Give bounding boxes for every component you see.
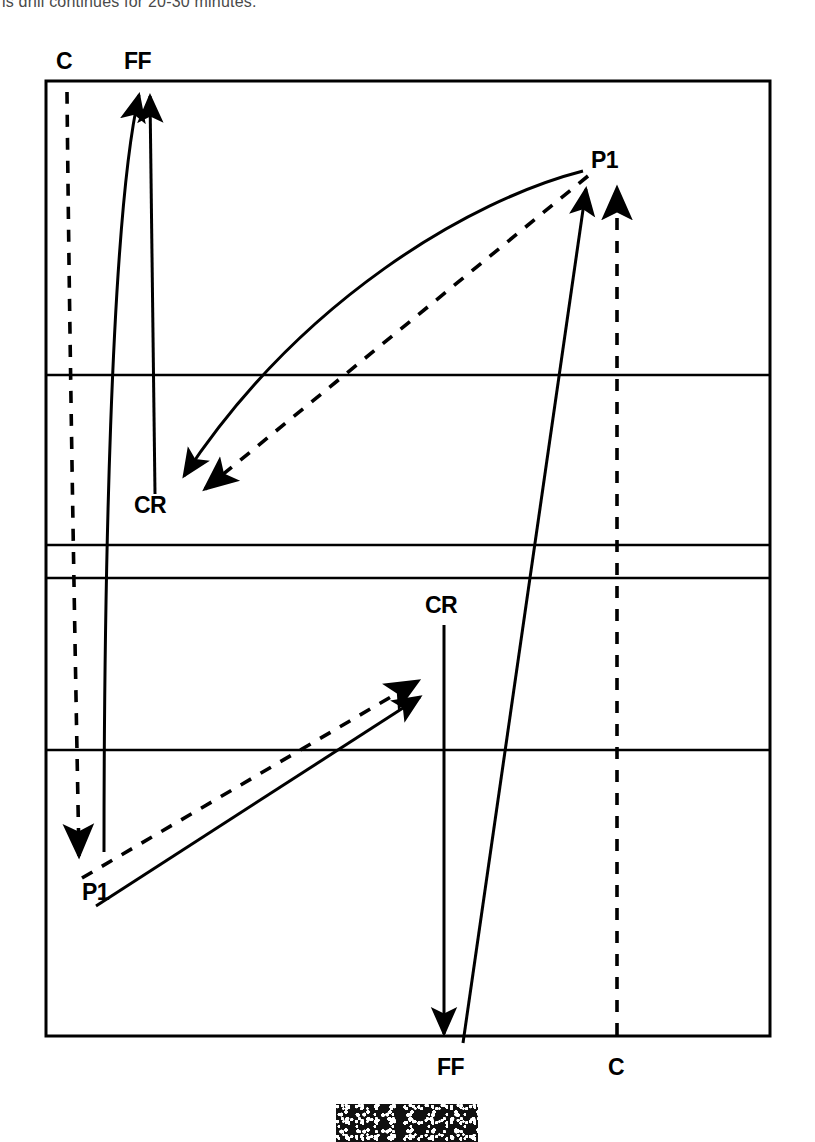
- rink-border: [46, 81, 770, 1036]
- path-ff-straight-up-left: [150, 96, 155, 494]
- label-lower-left-p1: P1: [82, 879, 110, 905]
- noise-block: [336, 1104, 478, 1142]
- path-p1-long-up-right-solid: [463, 189, 586, 1043]
- path-c-dashed-down-left: [67, 92, 79, 856]
- path-cr-curve-down-left-solid: [184, 171, 583, 476]
- movement-paths: [67, 92, 617, 1043]
- label-bottom-ff: FF: [437, 1054, 465, 1080]
- position-labels: CFFP1CRCRP1FFC: [56, 48, 624, 1080]
- label-upper-left-cr: CR: [134, 492, 167, 518]
- path-p1-up-right-dashed: [82, 681, 418, 878]
- rink-outline: [46, 81, 770, 1036]
- label-upper-right-p1: P1: [591, 147, 619, 173]
- path-ff-curve-up-left: [104, 95, 139, 852]
- label-lower-mid-cr: CR: [425, 592, 458, 618]
- path-p1-up-right-solid: [96, 697, 420, 906]
- drill-diagram: CFFP1CRCRP1FFC: [0, 0, 815, 1100]
- label-top-left-ff: FF: [124, 48, 152, 74]
- path-cr-line-down-left-dashed: [205, 176, 588, 489]
- label-bottom-c: C: [608, 1054, 624, 1080]
- diagram-canvas: CFFP1CRCRP1FFC: [0, 0, 815, 1100]
- label-top-left-c: C: [56, 48, 72, 74]
